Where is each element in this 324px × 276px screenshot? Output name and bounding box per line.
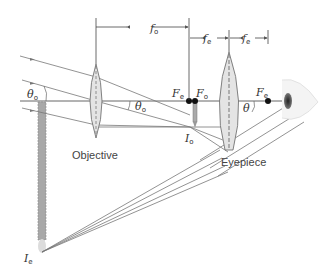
telescope-diagram: fo fe fe Fe Fo Fe θo θo θ Io Ie Objectiv… [0, 0, 324, 276]
fe-right-label: fe [241, 32, 250, 46]
angle-arc-theta [252, 101, 255, 112]
objective-label: Objective [72, 149, 118, 161]
virtual-ray [42, 150, 220, 252]
io-label: Io [184, 132, 194, 146]
image-column [38, 102, 46, 240]
fo-point-label: Fo [195, 87, 208, 101]
virtual-ray [42, 166, 225, 252]
ray-arrow [30, 58, 35, 61]
fe-left-point-label: Fe [171, 87, 184, 101]
fe-left-label: fe [202, 32, 211, 46]
theta-o-left-label: θo [27, 88, 38, 102]
theta-o-mid-label: θo [135, 100, 146, 114]
theta-label: θ [243, 102, 250, 115]
eyepiece-label: Eyepiece [221, 156, 266, 168]
fo-label: fo [149, 22, 158, 36]
eye-icon [282, 79, 318, 119]
virtual-ray [42, 158, 222, 252]
ray-segment [96, 101, 190, 127]
ie-label: Ie [23, 252, 33, 266]
fe-right-point-label: Fe [255, 86, 268, 100]
ray-arrow [30, 110, 35, 112]
virtual-ray [42, 172, 228, 252]
angle-arc-theta-o-mid [128, 101, 130, 110]
intermediate-image [193, 102, 197, 122]
ray-arrow [30, 82, 35, 85]
angle-arc-theta-o-left [44, 86, 47, 101]
